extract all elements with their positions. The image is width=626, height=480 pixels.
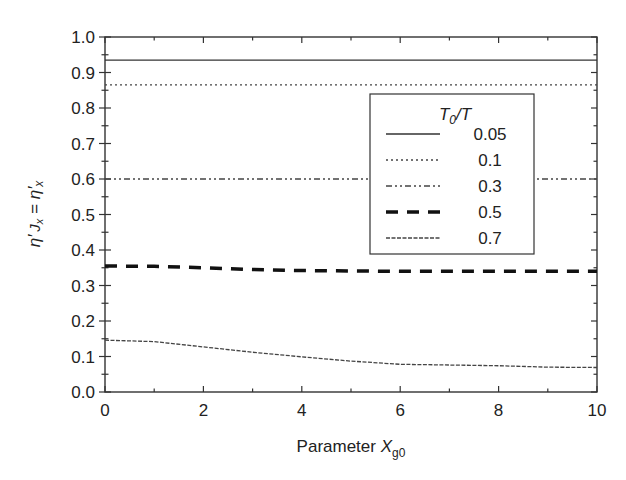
series-line-0_5 xyxy=(105,266,597,271)
x-axis-label-var: X xyxy=(380,437,393,456)
x-tick-label: 2 xyxy=(199,401,208,420)
y-tick-label: 0.2 xyxy=(71,312,95,331)
svg-text:η′Jx = η′x: η′Jx = η′x xyxy=(25,180,46,248)
x-axis-label-sub: g0 xyxy=(392,446,406,460)
y-tick-label: 0.0 xyxy=(71,383,95,402)
y-tick-labels: 0.00.10.20.30.40.50.60.70.80.91.0 xyxy=(71,28,95,402)
x-tick-label: 0 xyxy=(100,401,109,420)
y-tick-label: 0.3 xyxy=(71,277,95,296)
legend-item-label: 0.7 xyxy=(478,229,502,248)
x-axis-label: Parameter Xg0 xyxy=(297,437,406,460)
y-tick-label: 0.9 xyxy=(71,64,95,83)
x-axis-label-main: Parameter xyxy=(297,437,381,456)
legend-item-label: 0.5 xyxy=(478,203,502,222)
x-tick-label: 6 xyxy=(395,401,404,420)
legend-item-label: 0.1 xyxy=(478,151,502,170)
line-chart: 0246810 0.00.10.20.30.40.50.60.70.80.91.… xyxy=(0,0,626,480)
legend: T0/T 0.050.10.30.50.7 xyxy=(370,94,534,254)
x-tick-label: 10 xyxy=(588,401,607,420)
y-tick-label: 0.8 xyxy=(71,99,95,118)
y-tick-label: 0.4 xyxy=(71,241,95,260)
legend-item-label: 0.3 xyxy=(478,177,502,196)
legend-title: T0/T xyxy=(439,105,473,127)
y-tick-label: 0.5 xyxy=(71,206,95,225)
x-tick-label: 8 xyxy=(494,401,503,420)
y-axis-label: η′Jx = η′x xyxy=(25,180,46,248)
x-tick-labels: 0246810 xyxy=(100,401,606,420)
y-tick-label: 0.6 xyxy=(71,170,95,189)
y-tick-label: 0.7 xyxy=(71,135,95,154)
legend-item-label: 0.05 xyxy=(473,125,506,144)
y-tick-label: 1.0 xyxy=(71,28,95,47)
series-line-0_7 xyxy=(105,340,597,367)
x-tick-label: 4 xyxy=(297,401,306,420)
y-tick-label: 0.1 xyxy=(71,348,95,367)
